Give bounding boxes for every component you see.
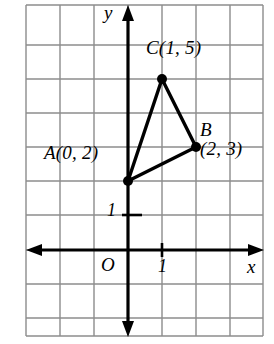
point-a-label: A(0, 2): [44, 143, 98, 162]
y-axis-label: y: [104, 2, 112, 24]
grid-background: [26, 5, 264, 336]
point-c-label: C(1, 5): [146, 38, 201, 57]
coordinate-plane-figure: C(1, 5) B (2, 3) A(0, 2) y x O 1 1: [0, 0, 274, 344]
point-a-marker: [123, 176, 133, 186]
coordinate-plane-svg: [0, 0, 274, 344]
origin-label: O: [101, 254, 115, 276]
x-axis-tick-label-1: 1: [158, 256, 167, 277]
point-b-label-name: B: [200, 120, 242, 139]
y-axis-tick-label-1: 1: [107, 200, 116, 221]
point-b-label: B (2, 3): [200, 120, 242, 159]
point-c-marker: [157, 74, 167, 84]
x-axis-label: x: [247, 256, 255, 278]
point-b-label-coords: (2, 3): [200, 139, 242, 158]
